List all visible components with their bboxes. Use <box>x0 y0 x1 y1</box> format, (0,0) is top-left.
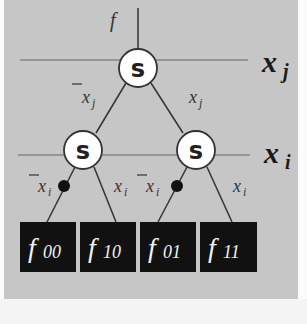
complement-dot-icon <box>58 180 70 192</box>
leaf-f00: f 00 <box>20 222 76 272</box>
edge-label-not-xj: x j <box>72 84 96 110</box>
svg-text:i: i <box>48 185 51 199</box>
node-left: s <box>64 131 102 169</box>
svg-text:00: 00 <box>43 242 61 262</box>
leaf-f10: f 10 <box>80 222 136 272</box>
svg-text:j: j <box>90 96 96 110</box>
edge-label-not-xi-right: x i <box>137 175 159 199</box>
svg-text:i: i <box>243 185 246 199</box>
edge-left-right <box>94 167 116 222</box>
edge-label-xi-right: x i <box>232 176 246 199</box>
leaf-f01: f 01 <box>140 222 196 272</box>
svg-text:01: 01 <box>163 242 181 262</box>
svg-text:10: 10 <box>103 242 121 262</box>
svg-text:x: x <box>113 176 122 196</box>
svg-text:s: s <box>76 137 90 165</box>
svg-text:x: x <box>263 136 279 169</box>
svg-text:x: x <box>261 45 277 78</box>
edge-root-left <box>96 83 126 133</box>
svg-text:j: j <box>280 60 289 83</box>
edge-right-left <box>158 167 187 222</box>
svg-text:11: 11 <box>223 242 240 262</box>
leaf-f11: f 11 <box>200 222 257 272</box>
svg-text:x: x <box>232 176 241 196</box>
svg-text:i: i <box>124 185 127 199</box>
svg-text:i: i <box>156 185 159 199</box>
svg-text:j: j <box>197 96 203 110</box>
complement-dot-icon <box>171 180 183 192</box>
bdd-diagram: s s s f x j x i x j x j x i x i x i <box>0 0 307 324</box>
edge-label-xj: x j <box>188 87 203 110</box>
svg-text:s: s <box>131 55 145 83</box>
root-label: f <box>110 9 118 32</box>
svg-text:i: i <box>285 151 291 173</box>
edge-label-not-xi-left: x i <box>29 175 51 199</box>
svg-text:x: x <box>81 87 90 107</box>
edge-right-right <box>207 167 232 222</box>
svg-text:x: x <box>37 176 46 196</box>
edge-label-xi-left: x i <box>113 176 127 199</box>
svg-text:x: x <box>145 176 154 196</box>
node-root: s <box>119 49 157 87</box>
edge-root-right <box>151 83 183 133</box>
level-label-xj: x j <box>261 45 289 83</box>
svg-text:s: s <box>189 137 203 165</box>
node-right: s <box>177 131 215 169</box>
level-label-xi: x i <box>263 136 291 173</box>
svg-text:x: x <box>188 87 197 107</box>
